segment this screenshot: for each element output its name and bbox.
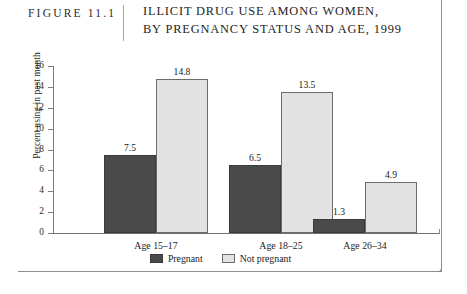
y-axis-tick-mark: [48, 170, 53, 171]
chart-legend: PregnantNot pregnant: [0, 253, 441, 264]
y-axis-tick-mark: [48, 129, 53, 130]
bar-value-label: 4.9: [365, 169, 417, 180]
legend-swatch-icon: [150, 254, 163, 263]
y-axis-tick-label: 4: [22, 185, 44, 195]
x-axis-group-label: Age 26–34: [313, 240, 417, 251]
y-axis-tick-label: 8: [22, 144, 44, 154]
bar-pregnant-1: [229, 165, 281, 233]
y-axis-tick-label: 6: [22, 164, 44, 174]
y-axis-tick-mark: [48, 108, 53, 109]
legend-label: Not pregnant: [240, 253, 291, 264]
y-axis-tick-label: 10: [22, 123, 44, 133]
x-axis-line: [53, 233, 440, 234]
y-axis-tick-mark: [48, 150, 53, 151]
y-axis-tick-mark: [48, 212, 53, 213]
y-axis-tick-label: 0: [22, 227, 44, 237]
y-axis-tick-mark: [48, 66, 53, 67]
y-axis-tick-label: 14: [22, 81, 44, 91]
bar-value-label: 7.5: [104, 142, 156, 153]
bar-notpregnant-0: [156, 79, 208, 233]
bar-value-label: 1.3: [313, 206, 365, 217]
bar-value-label: 6.5: [229, 152, 281, 163]
figure-container: FIGURE 11.1 ILLICIT DRUG USE AMONG WOMEN…: [0, 0, 467, 294]
bar-value-label: 14.8: [156, 66, 208, 77]
chart-plot-area: Percent using in past month 024681012141…: [0, 0, 467, 294]
bar-value-label: 13.5: [281, 79, 333, 90]
bar-notpregnant-2: [365, 182, 417, 233]
legend-item-pregnant: Pregnant: [150, 253, 203, 264]
legend-label: Pregnant: [168, 253, 203, 264]
legend-item-notpregnant: Not pregnant: [222, 253, 291, 264]
bar-pregnant-2: [313, 219, 365, 233]
y-axis-tick-label: 16: [22, 60, 44, 70]
x-axis-endcap: [439, 229, 440, 234]
bar-pregnant-0: [104, 155, 156, 233]
y-axis-tick-mark: [48, 233, 53, 234]
y-axis-tick-label: 12: [22, 102, 44, 112]
y-axis-tick-label: 2: [22, 206, 44, 216]
legend-swatch-icon: [222, 254, 235, 263]
x-axis-group-label: Age 15–17: [104, 240, 208, 251]
y-axis-tick-mark: [48, 191, 53, 192]
y-axis-line: [53, 66, 54, 234]
y-axis-tick-mark: [48, 87, 53, 88]
